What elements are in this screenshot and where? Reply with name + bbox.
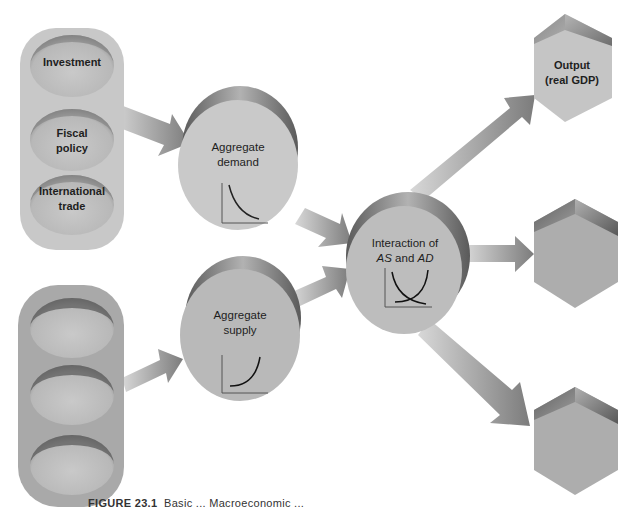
arrow-interaction-to-output: [410, 95, 535, 200]
figure-caption: FIGURE 23.1 Basic ... Macroeconomic ...: [88, 497, 304, 509]
arrow-as-to-interaction: [292, 266, 350, 306]
input-label-fiscal-policy: Fiscal policy: [32, 126, 112, 156]
arrow-interaction-to-output-3: [418, 320, 530, 426]
aggregate-supply-label: Aggregate supply: [200, 308, 280, 338]
supply-inputs-group: [18, 285, 124, 507]
input-oval-supply-2: [30, 365, 114, 425]
input-oval-supply-3: [30, 435, 114, 495]
output-hexagon-3: [534, 387, 618, 495]
aggregate-demand-label: Aggregate demand: [198, 140, 278, 170]
input-label-international-trade: International trade: [26, 184, 118, 214]
output-label-real-gdp: Output (real GDP): [532, 58, 612, 88]
arrow-ad-to-interaction: [295, 208, 352, 247]
input-label-investment: Investment: [32, 55, 112, 70]
arrow-interaction-to-output-2: [465, 236, 534, 272]
arrow-supply-inputs-to-as: [122, 349, 183, 392]
output-hexagon-2: [534, 199, 618, 308]
interaction-label: Interaction of AS and AD: [360, 236, 450, 266]
input-oval-supply-1: [30, 298, 114, 358]
